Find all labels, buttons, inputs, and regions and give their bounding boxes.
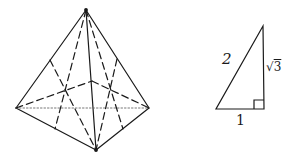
median-left-face-2: [55, 10, 86, 129]
edge-apex-front: [86, 10, 96, 150]
edge-left-back: [16, 81, 92, 108]
radicand: 3: [274, 60, 282, 74]
median-right-face-2: [86, 10, 123, 129]
leg-label: √3: [266, 60, 281, 74]
edge-apex-left: [16, 10, 86, 108]
right-angle-marker: [254, 100, 264, 109]
vertex-apex: [85, 9, 88, 12]
tetrahedron-diagram: [0, 0, 299, 161]
median-left-face-1: [50, 60, 96, 150]
radical-sign: √: [266, 60, 274, 74]
edge-left-front: [16, 108, 96, 150]
base-label: 1: [236, 112, 245, 128]
hypotenuse-label: 2: [222, 50, 232, 68]
vertex-front: [95, 149, 98, 152]
